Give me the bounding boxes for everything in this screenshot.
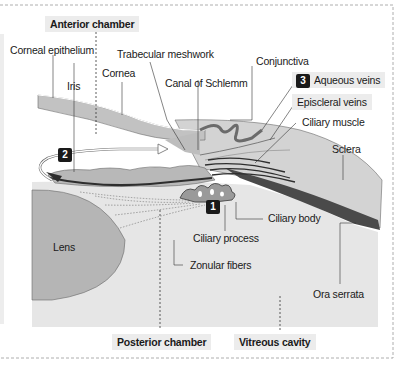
label-zonular-fibers: Zonular fibers [190,259,251,271]
label-lens: Lens [53,241,75,253]
flow-arrowhead [158,144,168,154]
label-ciliary-process: Ciliary process [193,232,259,244]
label-corneal-epithelium: Corneal epithelium [10,44,94,56]
label-canal-of-schlemm: Canal of Schlemm [165,77,248,89]
step-badge-3: 3 [296,74,310,88]
iris-shape [48,166,215,187]
label-posterior-chamber: Posterior chamber [112,334,211,350]
label-anterior-chamber: Anterior chamber [45,16,139,32]
step-badge-2: 2 [58,148,72,162]
label-sclera: Sclera [332,143,361,155]
label-ciliary-body: Ciliary body [268,212,320,224]
eye-anatomy-diagram: Anterior chamber Corneal epithelium Trab… [0,0,400,375]
label-vitreous-cavity: Vitreous cavity [234,334,316,350]
label-ciliary-muscle: Ciliary muscle [302,116,365,128]
label-cornea: Cornea [102,67,135,79]
label-ora-serrata: Ora serrata [313,288,364,300]
label-conjunctiva: Conjunctiva [256,55,309,67]
cornea-shape [38,95,205,140]
label-episcleral-veins: Episcleral veins [292,94,372,110]
label-trabecular-meshwork: Trabecular meshwork [117,48,214,60]
label-iris: Iris [67,80,80,92]
step-badge-1: 1 [206,200,220,214]
